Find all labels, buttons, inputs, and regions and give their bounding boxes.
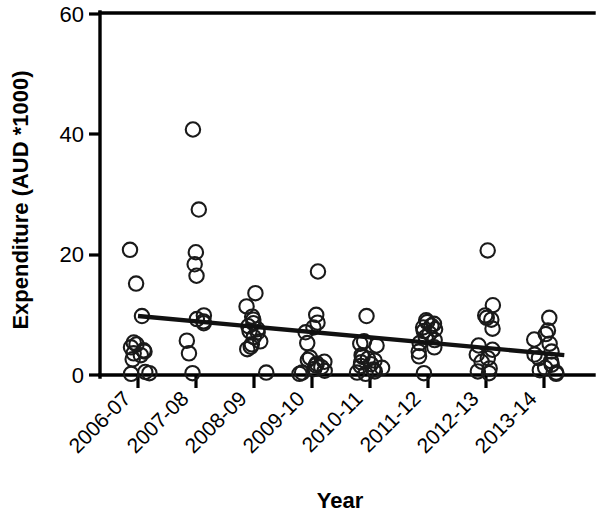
y-tick-label-20: 20	[60, 242, 84, 267]
y-axis-title: Expenditure (AUD *1000)	[8, 70, 33, 329]
scatter-chart: Expenditure (AUD *1000) Year 60 40 20 0 …	[0, 0, 596, 515]
y-tick-label-60: 60	[60, 2, 84, 27]
x-axis-title-text: Year	[317, 488, 364, 513]
y-axis-title-text: Expenditure (AUD *1000)	[8, 70, 33, 329]
y-tick-label-0: 0	[72, 363, 84, 388]
y-tick-label-40: 40	[60, 122, 84, 147]
